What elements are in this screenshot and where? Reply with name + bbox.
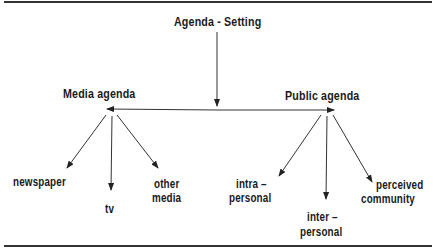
node-newspaper: newspaper <box>13 176 66 188</box>
arrow-to-media-agenda <box>107 109 217 110</box>
node-perceived-community-line2: community <box>361 193 415 205</box>
node-other-media-line2: media <box>152 192 181 204</box>
node-intra-personal-line2: personal <box>229 192 271 204</box>
node-perceived-community-line1: perceived <box>376 179 423 191</box>
arrow-inter-personal <box>326 116 327 199</box>
node-inter-personal-line2: personal <box>300 226 342 238</box>
arrow-other-media <box>117 115 158 168</box>
node-other-media-line1: other <box>154 178 179 190</box>
arrow-intra-personal <box>279 115 321 176</box>
title-agenda-setting: Agenda - Setting <box>174 16 261 28</box>
node-tv: tv <box>105 203 114 215</box>
arrow-tv <box>111 116 112 190</box>
diagram-edges <box>0 0 437 250</box>
node-inter-personal-line1: inter – <box>307 211 338 223</box>
arrow-perceived-community <box>333 115 372 182</box>
arrow-newspaper <box>67 115 106 168</box>
node-public-agenda: Public agenda <box>285 90 359 102</box>
node-media-agenda: Media agenda <box>63 88 135 100</box>
node-intra-personal-line1: intra – <box>236 178 267 190</box>
